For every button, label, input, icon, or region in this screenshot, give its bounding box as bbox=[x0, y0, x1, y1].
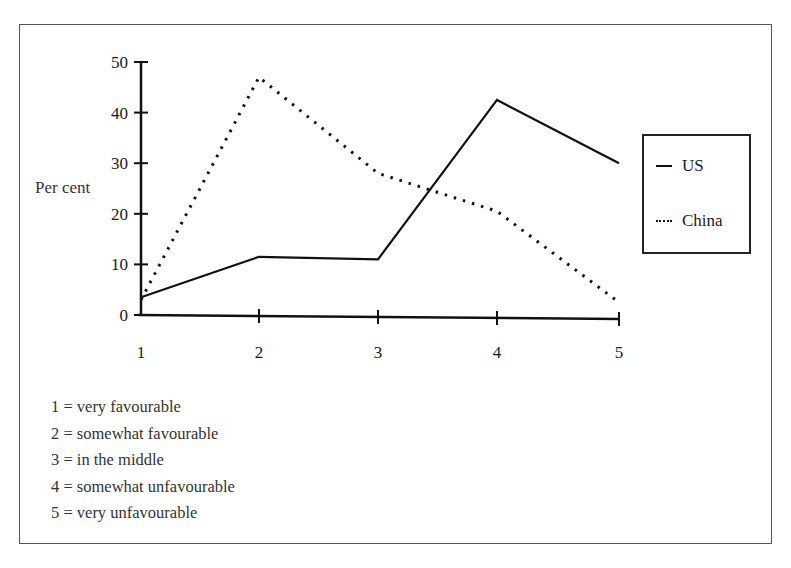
legend-label: China bbox=[682, 211, 723, 231]
y-tick-label: 50 bbox=[111, 53, 128, 72]
scale-key: 1 = very favourable 2 = somewhat favoura… bbox=[51, 394, 235, 527]
legend-swatch-solid bbox=[656, 165, 672, 167]
legend: US China bbox=[642, 134, 751, 254]
y-tick-label: 20 bbox=[111, 205, 128, 224]
x-tick-label: 5 bbox=[615, 343, 624, 362]
y-tick-label: 0 bbox=[120, 306, 129, 325]
scale-key-item: 1 = very favourable bbox=[51, 394, 235, 421]
legend-label: US bbox=[682, 156, 704, 176]
y-tick-label: 30 bbox=[111, 154, 128, 173]
legend-item-us: US bbox=[656, 156, 704, 176]
legend-item-china: China bbox=[656, 211, 723, 231]
scale-key-item: 5 = very unfavourable bbox=[51, 500, 235, 527]
y-tick-label: 10 bbox=[111, 255, 128, 274]
scale-key-item: 2 = somewhat favourable bbox=[51, 421, 235, 448]
scale-key-item: 3 = in the middle bbox=[51, 447, 235, 474]
x-tick-label: 4 bbox=[493, 343, 502, 362]
y-tick-label: 40 bbox=[111, 104, 128, 123]
scale-key-item: 4 = somewhat unfavourable bbox=[51, 474, 235, 501]
axes: 0102030405012345 bbox=[111, 53, 623, 362]
series-line-china bbox=[141, 77, 619, 302]
x-tick-label: 1 bbox=[137, 343, 146, 362]
x-tick-label: 3 bbox=[374, 343, 383, 362]
series-layer bbox=[141, 77, 619, 302]
y-axis-label: Per cent bbox=[35, 178, 91, 197]
legend-swatch-dotted bbox=[656, 220, 672, 222]
series-line-us bbox=[141, 100, 619, 297]
x-tick-label: 2 bbox=[255, 343, 264, 362]
